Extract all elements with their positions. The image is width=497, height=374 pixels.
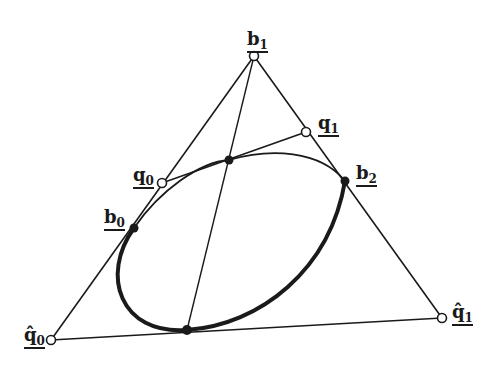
label-b0-sub: 0 [117,216,125,230]
label-q0hat: q̂0 [24,326,45,349]
label-q0-text: q [133,164,146,185]
edge-b1-q1hat [254,56,442,318]
label-q1hat: q̂1 [452,303,473,326]
label-b0: b0 [104,208,125,231]
point-b0 [130,224,139,233]
point-q1hat [438,314,447,323]
label-q0: q0 [133,166,154,189]
label-b1: b1 [247,30,268,53]
point-q1 [302,128,311,137]
label-b2-sub: 2 [369,172,377,186]
edge-q0hat-q1hat [51,318,442,340]
label-q1-sub: 1 [331,122,339,136]
label-q0hat-sub: 0 [37,334,45,348]
edge-q0hat-b1 [51,56,254,340]
point-q0 [158,179,167,188]
point-q0hat [47,336,56,345]
label-b0-text: b [104,206,117,227]
line-b1-bottom [187,56,254,330]
label-q1hat-sub: 1 [465,311,473,325]
label-q1: q1 [318,114,339,137]
point-center-top [225,156,234,165]
label-q1hat-text: q̂ [452,301,465,322]
label-q0-sub: 0 [146,174,154,188]
point-bottom-tangent [182,325,192,335]
label-b1-sub: 1 [260,38,268,52]
label-b2-text: b [356,162,369,183]
conic-diagram [0,0,497,374]
label-q1-text: q [318,112,331,133]
label-q0hat-text: q̂ [24,324,37,345]
label-b2: b2 [356,164,377,187]
ellipse-upper-arc [134,153,345,228]
label-b1-text: b [247,28,260,49]
ellipse-lower-arc [118,181,345,330]
point-b2 [341,177,350,186]
